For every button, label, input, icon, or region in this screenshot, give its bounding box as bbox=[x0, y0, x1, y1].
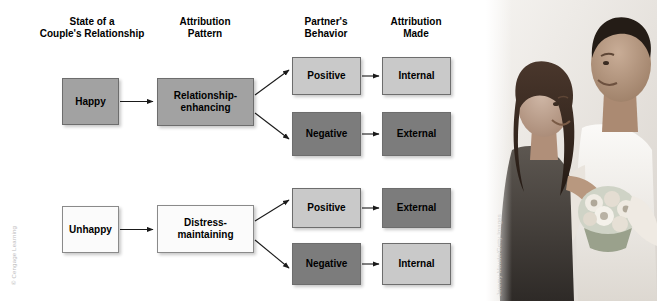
box-behavior-positive-happy[interactable]: Positive bbox=[292, 57, 361, 95]
box-attribution-internal-unhappy[interactable]: Internal bbox=[382, 243, 451, 285]
couple-photo bbox=[486, 0, 657, 301]
attribution-flowchart-figure: State of a Couple's Relationship Attribu… bbox=[0, 0, 657, 301]
box-state-unhappy[interactable]: Unhappy bbox=[62, 206, 119, 253]
box-state-happy[interactable]: Happy bbox=[62, 78, 119, 125]
box-attribution-internal-happy[interactable]: Internal bbox=[382, 57, 451, 95]
column-header-behavior: Partner's Behavior bbox=[283, 16, 369, 40]
column-header-pattern: Attribution Pattern bbox=[153, 16, 257, 40]
column-header-attribution: Attribution Made bbox=[373, 16, 459, 40]
box-behavior-positive-unhappy[interactable]: Positive bbox=[292, 188, 361, 228]
publisher-credit: © Cengage Learning bbox=[11, 226, 17, 285]
box-pattern-distress-maintaining[interactable]: Distress- maintaining bbox=[157, 205, 254, 253]
box-attribution-external-unhappy[interactable]: External bbox=[382, 188, 451, 228]
box-behavior-negative-happy[interactable]: Negative bbox=[292, 112, 361, 156]
box-attribution-external-happy[interactable]: External bbox=[382, 112, 451, 156]
photo-credit: Jeremy Maude/Getty Images bbox=[496, 214, 502, 296]
box-pattern-relationship-enhancing[interactable]: Relationship- enhancing bbox=[157, 78, 254, 126]
box-behavior-negative-unhappy[interactable]: Negative bbox=[292, 243, 361, 285]
column-header-state: State of a Couple's Relationship bbox=[22, 16, 162, 40]
